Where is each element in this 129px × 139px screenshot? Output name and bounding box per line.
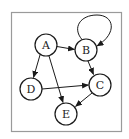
node-a-label: A <box>41 39 51 52</box>
node-b: B <box>75 39 97 61</box>
node-c-label: C <box>96 79 104 92</box>
edge-c-to-e <box>76 93 93 107</box>
edge-a-to-d <box>34 55 41 78</box>
edge-a-to-b <box>57 47 75 50</box>
edge-b-to-c <box>88 61 94 75</box>
edge-d-to-c <box>42 85 89 89</box>
directed-graph-diagram: A B C D E <box>0 0 129 139</box>
node-a: A <box>35 34 57 56</box>
node-d: D <box>20 78 42 100</box>
node-d-label: D <box>27 83 36 96</box>
node-e: E <box>55 103 77 125</box>
node-c: C <box>89 74 111 96</box>
edge-a-to-e <box>49 56 63 103</box>
node-b-label: B <box>82 44 90 57</box>
node-e-label: E <box>62 108 70 121</box>
